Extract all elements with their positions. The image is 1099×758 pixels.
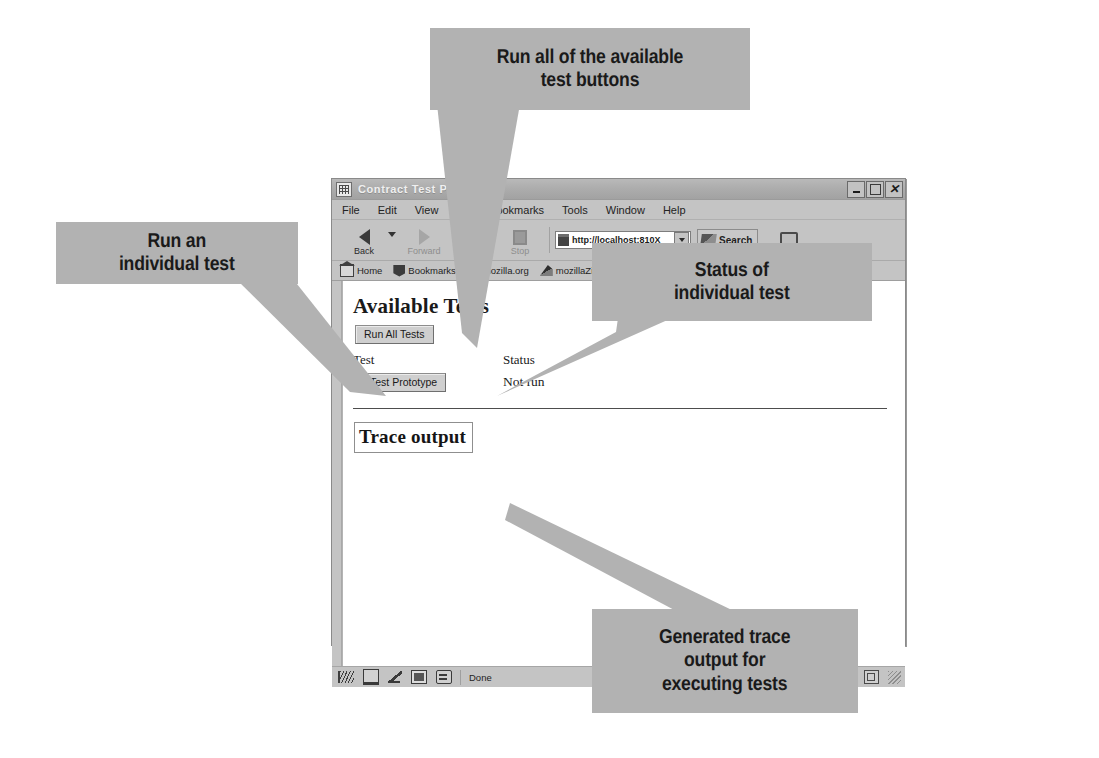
forward-button[interactable]: Forward: [400, 221, 448, 259]
status-bar-icons: [338, 669, 452, 685]
test-cell: Test Prototype: [353, 372, 503, 394]
menu-item-window[interactable]: Window: [606, 204, 645, 216]
toolbar-separator: [549, 227, 550, 253]
back-history-caret-icon[interactable]: [388, 232, 396, 237]
bookmark-bookmarks-label: Bookmarks: [408, 265, 456, 276]
column-header-test: Test: [353, 352, 503, 372]
menu-item-help[interactable]: Help: [663, 204, 686, 216]
window-controls: ✕: [847, 181, 903, 198]
stop-label: Stop: [511, 246, 530, 256]
trace-output-box: Trace output: [354, 422, 473, 453]
menu-item-go[interactable]: Go: [456, 204, 471, 216]
callout-individual-text: Run an individual test: [119, 230, 235, 276]
lizard-icon: [467, 265, 480, 276]
sidebar-collapse-rail[interactable]: [332, 281, 342, 666]
close-button[interactable]: ✕: [885, 181, 903, 198]
callout-generated-trace: Generated trace output for executing tes…: [592, 609, 858, 713]
page-favicon-icon: [558, 234, 569, 246]
reload-label: Reload: [458, 246, 487, 256]
menu-item-bookmarks[interactable]: Bookmarks: [489, 204, 544, 216]
stop-button[interactable]: Stop: [496, 221, 544, 259]
window-title: Contract Test Page: [358, 183, 847, 195]
lizard-icon: [540, 265, 553, 276]
callout-status-text: Status of individual test: [674, 259, 790, 305]
callout-status-of-test: Status of individual test: [592, 243, 872, 321]
menu-item-edit[interactable]: Edit: [378, 204, 397, 216]
app-grid-icon: [336, 182, 352, 197]
content-divider: [353, 408, 887, 409]
bookmark-home[interactable]: Home: [340, 264, 382, 277]
printer-icon: [780, 225, 798, 245]
menu-item-tools[interactable]: Tools: [562, 204, 588, 216]
callout-run-all-tests: Run all of the available test buttons: [430, 28, 750, 110]
printer-icon[interactable]: [363, 669, 379, 685]
tests-table: Test Status Test Prototype Not run: [353, 352, 545, 394]
image-icon[interactable]: [411, 670, 427, 684]
menu-item-file[interactable]: File: [342, 204, 360, 216]
security-icon[interactable]: [864, 670, 879, 684]
transfer-icon[interactable]: [338, 671, 354, 683]
callout-run-all-text: Run all of the available test buttons: [497, 46, 683, 92]
status-bar-separator: [460, 670, 461, 685]
trace-output-label: Trace output: [359, 426, 466, 447]
stop-icon: [513, 225, 527, 245]
callout-trace-text: Generated trace output for executing tes…: [659, 626, 790, 696]
bookmark-home-label: Home: [357, 265, 382, 276]
run-all-tests-button[interactable]: Run All Tests: [355, 325, 434, 344]
column-header-status: Status: [503, 352, 545, 372]
maximize-button[interactable]: [866, 181, 884, 198]
bookmark-mozilla-org[interactable]: mozilla.org: [467, 265, 529, 276]
back-arrow-icon: [359, 225, 370, 245]
resize-grip-icon[interactable]: [888, 671, 901, 684]
home-icon: [340, 264, 354, 277]
test-prototype-button[interactable]: Test Prototype: [361, 373, 446, 392]
table-header-row: Test Status: [353, 352, 545, 372]
back-label: Back: [354, 246, 374, 256]
padlock-icon[interactable]: [436, 670, 452, 684]
pen-icon[interactable]: [388, 671, 402, 683]
reload-button[interactable]: Reload: [448, 221, 496, 259]
window-titlebar[interactable]: Contract Test Page ✕: [332, 179, 905, 200]
bookmark-bookmarks[interactable]: Bookmarks: [393, 265, 456, 277]
status-bar-right: [864, 670, 901, 684]
forward-arrow-icon: [419, 225, 430, 245]
status-cell: Not run: [503, 372, 545, 394]
minimize-button[interactable]: [847, 181, 865, 198]
table-row: Test Prototype Not run: [353, 372, 545, 394]
callout-individual-test: Run an individual test: [56, 222, 298, 284]
forward-label: Forward: [407, 246, 440, 256]
reload-icon: [465, 225, 480, 245]
back-button[interactable]: Back: [340, 221, 388, 259]
bookmark-mozilla-org-label: mozilla.org: [483, 265, 529, 276]
menu-item-view[interactable]: View: [415, 204, 439, 216]
bookmark-icon: [393, 265, 405, 277]
menu-bar: File Edit View Go Bookmarks Tools Window…: [332, 200, 905, 220]
